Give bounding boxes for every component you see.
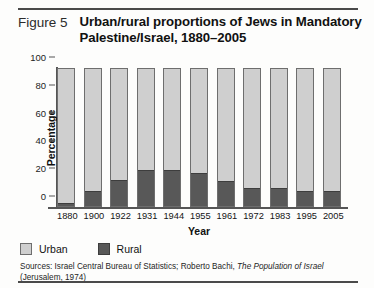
bar-segment-urban [297, 69, 313, 191]
x-tick-label-1931: 1931 [137, 211, 155, 221]
x-axis-title: Year [57, 225, 341, 237]
bar-series-group [57, 68, 341, 207]
legend-item-urban: Urban [20, 243, 68, 255]
bottom-divider-rule [18, 281, 358, 283]
bar-2005[interactable] [323, 68, 341, 207]
sources-note: Sources: Israel Central Bureau of Statis… [20, 262, 360, 283]
bar-segment-rural [218, 181, 234, 206]
figure-header: Figure 5 Urban/rural proportions of Jews… [18, 14, 362, 46]
bar-1880[interactable] [57, 68, 75, 207]
y-tick-80: 80 [35, 79, 57, 90]
y-tick-label: 80 [35, 79, 46, 90]
y-tick-label: 20 [35, 163, 46, 174]
bar-1983[interactable] [270, 68, 288, 207]
bar-1931[interactable] [137, 68, 155, 207]
x-tick-label-1880: 1880 [57, 211, 75, 221]
y-tick-100: 100 [30, 52, 57, 63]
figure-title: Urban/rural proportions of Jews in Manda… [80, 14, 362, 46]
bar-segment-rural [85, 191, 101, 206]
x-tick-label-1961: 1961 [217, 211, 235, 221]
legend-label-rural: Rural [117, 243, 142, 255]
x-tick-label-1983: 1983 [270, 211, 288, 221]
bar-segment-urban [218, 69, 234, 181]
bar-1972[interactable] [243, 68, 261, 207]
y-tick-mark [49, 84, 55, 85]
x-tick-label-1900: 1900 [84, 211, 102, 221]
bar-1900[interactable] [84, 68, 102, 207]
bar-segment-rural [58, 203, 74, 206]
x-tick-label-2005: 2005 [323, 211, 341, 221]
bar-segment-rural [244, 188, 260, 206]
y-tick-label: 0 [41, 191, 46, 202]
chart-legend: Urban Rural [20, 243, 172, 255]
y-tick-mark [49, 195, 55, 196]
x-tick-label-1955: 1955 [190, 211, 208, 221]
x-axis-line [48, 207, 348, 209]
plot-area: Percentage 020406080100 [57, 68, 341, 207]
bar-segment-urban [191, 69, 207, 173]
figure-container: Figure 5 Urban/rural proportions of Jews… [0, 0, 374, 288]
y-tick-60: 60 [35, 107, 57, 118]
bar-segment-rural [111, 180, 127, 206]
sources-line1-prefix: Sources: Israel Central Bureau of Statis… [20, 262, 237, 271]
bar-segment-rural [324, 191, 340, 206]
x-tick-label-1972: 1972 [243, 211, 261, 221]
sources-book-title: The Population of Israel [237, 262, 323, 271]
bar-1922[interactable] [110, 68, 128, 207]
figure-number-label: Figure 5 [18, 14, 68, 31]
x-tick-label-1944: 1944 [163, 211, 181, 221]
y-tick-0: 0 [41, 191, 57, 202]
y-tick-label: 60 [35, 107, 46, 118]
y-tick-label: 40 [35, 135, 46, 146]
bar-1944[interactable] [163, 68, 181, 207]
x-axis-tick-labels: 1880190019221931194419551961197219831995… [57, 211, 341, 221]
y-tick-40: 40 [35, 135, 57, 146]
x-tick-label-1995: 1995 [296, 211, 314, 221]
bar-segment-urban [111, 69, 127, 180]
y-tick-20: 20 [35, 163, 57, 174]
y-tick-mark [49, 112, 55, 113]
bar-1955[interactable] [190, 68, 208, 207]
bar-segment-urban [85, 69, 101, 191]
bar-1961[interactable] [217, 68, 235, 207]
bar-segment-urban [138, 69, 154, 170]
bar-segment-rural [271, 188, 287, 206]
top-divider-rule [18, 8, 358, 10]
bar-segment-urban [58, 69, 74, 203]
y-tick-mark [49, 168, 55, 169]
legend-item-rural: Rural [98, 243, 142, 255]
legend-swatch-urban-icon [20, 243, 32, 255]
legend-label-urban: Urban [39, 243, 68, 255]
bar-1995[interactable] [296, 68, 314, 207]
x-tick-label-1922: 1922 [110, 211, 128, 221]
y-tick-mark [49, 56, 55, 57]
legend-swatch-rural-icon [98, 243, 110, 255]
bar-segment-rural [191, 173, 207, 206]
bar-segment-rural [164, 170, 180, 206]
bar-segment-urban [244, 69, 260, 188]
bar-segment-urban [271, 69, 287, 188]
bar-segment-rural [297, 191, 313, 206]
bar-segment-urban [324, 69, 340, 191]
bar-segment-urban [164, 69, 180, 170]
y-tick-mark [49, 140, 55, 141]
bar-segment-rural [138, 170, 154, 206]
y-tick-label: 100 [30, 52, 46, 63]
